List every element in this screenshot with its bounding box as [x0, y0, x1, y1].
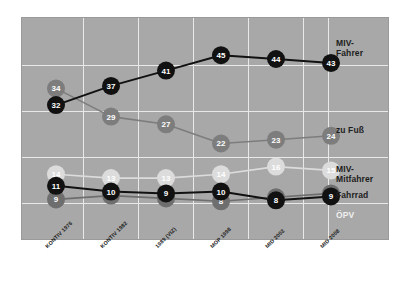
data-point-label: 11: [52, 182, 61, 191]
data-point-label: 41: [162, 67, 171, 76]
data-point-label: 37: [107, 82, 116, 91]
legend-item-zu-fuss: zu Fuß: [336, 125, 364, 135]
chart-container: 9109889141313141615342927222324111091089…: [0, 0, 410, 298]
data-point-label: 9: [54, 195, 59, 204]
data-point-label: 15: [327, 166, 336, 175]
data-point-label: 9: [329, 192, 334, 201]
legend-item-miv-mitfahrer: MIV- Mitfahrer: [336, 164, 373, 184]
series-line: [56, 167, 331, 179]
data-point-label: 27: [162, 120, 171, 129]
series-line: [56, 186, 331, 201]
data-point-label: 14: [217, 170, 226, 179]
data-point-label: 24: [327, 132, 336, 141]
data-point-label: 44: [272, 55, 281, 64]
data-point-label: 8: [274, 196, 279, 205]
data-point-label: 34: [52, 84, 61, 93]
legend-item-miv-fahrer: MIV- Fahrer: [336, 38, 363, 58]
legend-item-oepv: ÖPV: [336, 210, 354, 220]
series-line: [56, 55, 331, 105]
data-point-label: 29: [107, 113, 116, 122]
series-plot: 9109889141313141615342927222324111091089…: [22, 18, 390, 241]
data-point-label: 23: [272, 136, 281, 145]
data-point-label: 9: [164, 189, 169, 198]
series-line: [56, 88, 331, 143]
legend-item-fahrrad: Fahrrad: [336, 190, 368, 200]
data-point-label: 13: [107, 174, 116, 183]
data-point-label: 13: [162, 174, 171, 183]
data-point-label: 45: [217, 51, 226, 60]
data-point-label: 22: [217, 139, 226, 148]
data-point-label: 43: [327, 59, 336, 68]
plot-area: 9109889141313141615342927222324111091089…: [21, 17, 389, 240]
data-point-label: 32: [52, 101, 61, 110]
data-point-label: 10: [107, 188, 116, 197]
data-point-label: 16: [272, 163, 281, 172]
data-point-label: 10: [217, 188, 226, 197]
